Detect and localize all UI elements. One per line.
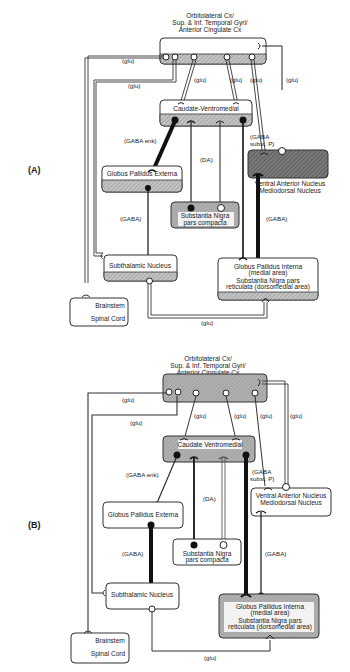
panel-b-label: (B) [28, 520, 41, 530]
label-gaba-enk: (GABA enk) [126, 471, 159, 478]
stn-node: Subthalamic Nucleus [103, 583, 179, 609]
cortex-title-line1: Orbitolateral Cx/ [186, 12, 234, 19]
inhibitory-terminal-icon [172, 117, 179, 124]
stn-node: Subthalamic Nucleus [101, 253, 177, 281]
thalamus-label-line1: Ventral Anterior Nucleus [255, 180, 326, 187]
label-glu-thalamus: (glu) [260, 412, 272, 419]
thalamus-label-line2: Mediodorsal Nucleus [260, 499, 322, 506]
label-glu-brainstem: (glu) [122, 396, 134, 403]
label-gaba-gpe-stn: (GABA) [122, 550, 143, 557]
label-glu-caudate-left: (glu) [194, 412, 206, 419]
thalamus-label-line2: Mediodorsal Nucleus [259, 187, 321, 194]
brainstem-label-line2: Spinal Cord [91, 650, 126, 658]
cortex-node [163, 374, 267, 402]
label-da: (DA) [200, 156, 213, 163]
label-glu-caudate-right: (glu) [234, 412, 246, 419]
gaba-enk-pathway [152, 121, 175, 173]
snc-label-line2: pars compacta [185, 556, 229, 564]
label-gaba-gpi-thalamus: (GABA) [265, 550, 286, 557]
label-glu-caudate-left: (glu) [194, 76, 206, 83]
label-glu-stn: (glu) [128, 82, 140, 89]
gpi-label-line2: (medial area) [251, 609, 290, 617]
label-gaba-substp-2: subst. P) [250, 475, 274, 482]
basal-ganglia-circuit-diagram: (A) Orbitolateral Cx/ Sup. & Inf. Tempor… [0, 0, 350, 672]
gpi-node: Globus Pallidus Interna (medial area) Su… [218, 258, 318, 300]
brainstem-label-line2: Spinal Cord [91, 315, 126, 323]
excitatory-terminal-icon [149, 606, 155, 612]
label-da: (DA) [203, 495, 216, 502]
brainstem-label-line1: Brainstem [95, 637, 125, 644]
snc-node: Substantia Nigra pars compacta [171, 202, 239, 228]
label-gaba-gpi-thalamus: (GABA) [266, 215, 287, 222]
cortex-title-line3: Anterior Cingulate Cx [179, 26, 242, 34]
label-gaba-substp-1: (GABA [250, 133, 270, 140]
gpi-label-line4: reticulata (dorsomedial area) [228, 623, 312, 631]
panel-b: (B) Orbitolateral Cx/ Sup. & Inf. Tempor… [28, 355, 331, 663]
label-gaba-gpe-stn: (GABA) [120, 215, 141, 222]
inhibitory-terminal-icon [145, 185, 151, 191]
label-glu-stn: (glu) [130, 419, 142, 426]
label-gaba-substp-2: subst. P) [250, 140, 274, 147]
inhibitory-terminal-icon [240, 117, 247, 124]
inhibitory-terminal-icon [174, 452, 181, 459]
panel-a-label: (A) [28, 165, 41, 175]
gaba-enk-pathway [157, 456, 177, 503]
excitatory-terminal-icon [147, 278, 153, 284]
label-glu-cortex-back: (glu) [290, 412, 302, 419]
label-gaba-enk: (GABA enk) [124, 137, 157, 144]
gpi-label-line2: (medial area) [249, 269, 288, 277]
gpe-label: Globus Pallidus Externa [108, 511, 179, 518]
stn-label: Subthalamic Nucleus [111, 591, 174, 598]
inhibitory-terminal-icon [243, 452, 250, 459]
brainstem-label-line1: Brainstem [95, 302, 125, 309]
gpe-node: Globus Pallidus Externa [102, 166, 182, 192]
brainstem-node: Brainstem Spinal Cord [70, 295, 128, 326]
da-line-b [222, 458, 225, 541]
label-glu-caudate-right: (glu) [230, 76, 242, 83]
caudate-label: Caudate Ventromedial [177, 441, 243, 448]
gpe-label: Globus Pallidus Externa [107, 170, 178, 177]
inhibitory-terminal-icon [148, 522, 155, 529]
label-glu-stn-gpi: (glu) [201, 319, 213, 326]
label-gaba-substp-1: (GABA [252, 468, 272, 475]
cortex-title-line1: Orbitolateral Cx/ [184, 355, 232, 362]
label-glu-stn-gpi: (glu) [204, 654, 216, 661]
snc-label-line2: pars compacta [183, 219, 227, 227]
label-glu-thalamus: (glu) [250, 76, 262, 83]
thalamus-label-line1: Ventral Anterior Nucleus [256, 492, 327, 499]
label-glu-brainstem: (glu) [122, 57, 134, 64]
stn-label: Subthalamic Nucleus [109, 262, 172, 269]
gpi-node: Globus Pallidus Interna (medial area) Su… [219, 594, 319, 638]
panel-a: (A) Orbitolateral Cx/ Sup. & Inf. Tempor… [28, 12, 328, 326]
caudate-label: Caudate-Ventromedial [173, 105, 239, 112]
gpi-label-line4: reticulata (dorsomedial area) [226, 283, 310, 291]
label-glu-cortex-back: (glu) [286, 76, 298, 83]
gpe-node: Globus Pallidus Externa [103, 502, 183, 528]
brainstem-node: Brainstem Spinal Cord [71, 631, 129, 663]
snc-node: Substantia Nigra pars compacta [173, 539, 241, 565]
